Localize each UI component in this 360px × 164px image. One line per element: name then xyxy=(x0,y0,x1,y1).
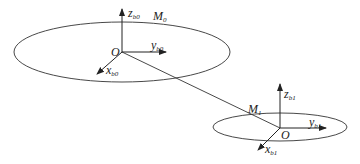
label-y-b1: yb1 xyxy=(309,116,321,130)
label-z-b0: zb0 xyxy=(128,7,140,21)
label-y-b0: yb0 xyxy=(151,39,163,53)
label-origin-b0: O xyxy=(111,46,120,58)
label-z-b1: zb1 xyxy=(284,88,296,102)
diagram-canvas: zb0 M0 yb0 O xb0 zb1 M1 yb1 O xb1 xyxy=(0,0,360,164)
label-origin-b1: O xyxy=(281,129,290,141)
label-m0: M0 xyxy=(153,10,167,24)
label-x-b0: xb0 xyxy=(106,64,118,78)
label-x-b1: xb1 xyxy=(265,143,277,157)
label-m1: M1 xyxy=(248,103,262,117)
diagram-graphics xyxy=(0,0,360,164)
